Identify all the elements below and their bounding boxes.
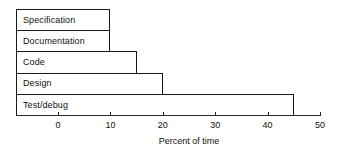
x-tick-label: 0 [55, 121, 60, 130]
x-tick-mark [320, 112, 321, 116]
bar-row: Documentation [16, 30, 110, 53]
x-tick-label: 10 [105, 121, 115, 130]
bar-label: Test/debug [17, 101, 68, 110]
x-tick-mark [163, 112, 164, 116]
bar-row: Specification [16, 9, 110, 32]
x-tick-mark [58, 112, 59, 116]
chart-screenshot: SpecificationDocumentationCodeDesignTest… [0, 0, 342, 156]
x-tick-mark [110, 112, 111, 116]
x-axis-line [16, 115, 320, 116]
bar-label: Specification [17, 16, 75, 25]
bar-label: Design [17, 79, 52, 88]
x-tick-label: 20 [158, 121, 168, 130]
x-axis-title: Percent of time [159, 137, 220, 146]
x-tick-mark [268, 112, 269, 116]
x-tick-label: 50 [315, 121, 325, 130]
bar-chart-plot-area: SpecificationDocumentationCodeDesignTest… [0, 0, 342, 156]
x-tick-label: 30 [210, 121, 220, 130]
x-tick-mark [215, 112, 216, 116]
bar-label: Documentation [17, 37, 85, 46]
bar-row: Code [16, 51, 137, 74]
bar-row: Design [16, 73, 163, 96]
bar-label: Code [17, 58, 45, 67]
x-tick-label: 40 [263, 121, 273, 130]
